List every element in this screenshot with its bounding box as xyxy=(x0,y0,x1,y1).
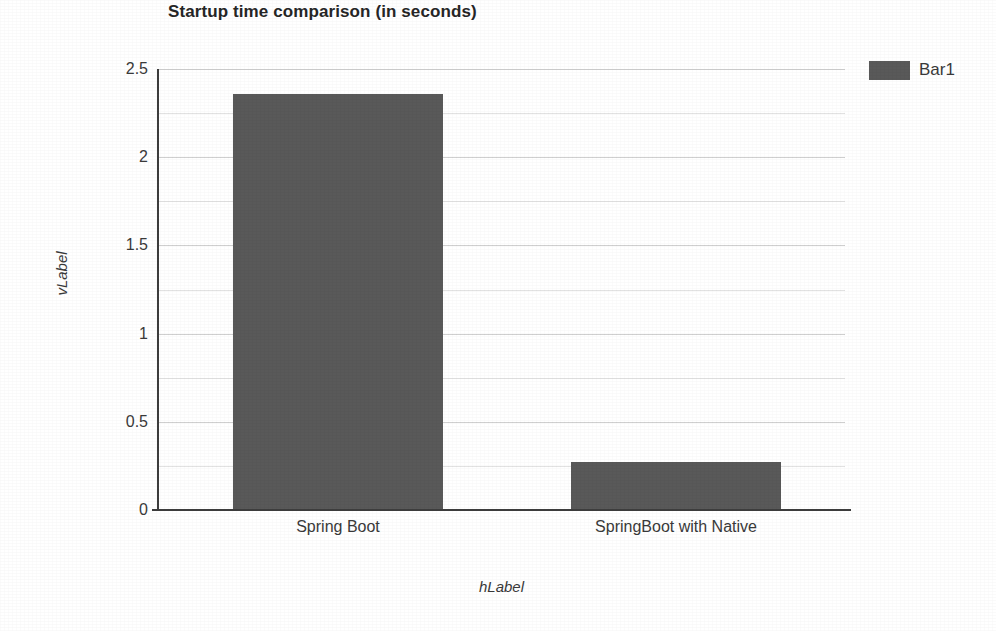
gridline-2.5 xyxy=(158,69,845,70)
y-tick-label: 2 xyxy=(88,148,148,166)
y-tick-label: 1 xyxy=(88,325,148,343)
y-tick-label: 0.5 xyxy=(88,413,148,431)
y-tick-label: 1.5 xyxy=(88,236,148,254)
x-tick-label-springboot-with-native: SpringBoot with Native xyxy=(571,518,781,536)
bar-chart: Startup time comparison (in seconds) 2.5… xyxy=(0,0,996,631)
bar-spring-boot[interactable] xyxy=(233,94,443,510)
x-axis-line xyxy=(152,509,851,511)
y-axis-ticks: 2.5 2 1.5 1 0.5 0 xyxy=(88,69,148,510)
y-tick-label: 0 xyxy=(88,501,148,519)
legend: Bar1 xyxy=(869,60,955,80)
y-axis-title: vLabel xyxy=(53,209,70,339)
plot-area xyxy=(158,69,845,510)
y-tick-label: 2.5 xyxy=(88,60,148,78)
bar-springboot-with-native[interactable] xyxy=(571,462,781,510)
chart-title: Startup time comparison (in seconds) xyxy=(168,2,477,22)
x-axis-title: hLabel xyxy=(158,578,845,595)
y-axis-line xyxy=(157,69,159,511)
x-tick-label-spring-boot: Spring Boot xyxy=(233,518,443,536)
legend-label-bar1: Bar1 xyxy=(919,60,955,80)
legend-swatch-bar1 xyxy=(869,61,910,80)
